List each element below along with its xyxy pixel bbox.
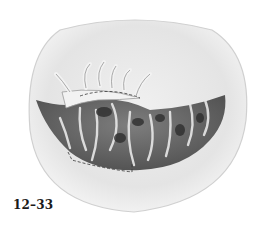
anatomical-illustration <box>0 0 268 229</box>
figure-label: 12–33 <box>13 198 53 212</box>
